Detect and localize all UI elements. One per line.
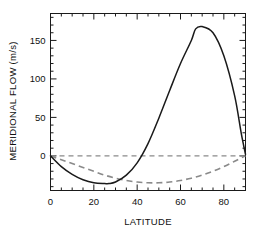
meridional-flow-chart: 020406080 050100150 LATITUDE MERIDIONAL … — [0, 0, 260, 236]
y-tick-label: 50 — [35, 112, 46, 123]
x-tick-label: 80 — [219, 196, 230, 207]
y-tick-label: 0 — [40, 150, 45, 161]
x-tick-label: 0 — [48, 196, 53, 207]
chart-figure: 020406080 050100150 LATITUDE MERIDIONAL … — [0, 0, 260, 236]
y-tick-label: 150 — [30, 35, 46, 46]
y-tick-label: 100 — [30, 73, 46, 84]
x-tick-label: 20 — [89, 196, 100, 207]
x-tick-label: 40 — [132, 196, 143, 207]
y-axis-title: MERIDIONAL FLOW (m/s) — [7, 41, 18, 160]
x-axis-title: LATITUDE — [124, 216, 172, 227]
x-tick-label: 60 — [175, 196, 186, 207]
